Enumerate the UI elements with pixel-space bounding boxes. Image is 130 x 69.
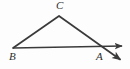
ray-b-through-a [13,46,122,48]
segment-bc [13,16,59,48]
vertex-label-b: B [9,51,16,62]
vertex-label-c: C [56,0,63,11]
ray-c-through-a [59,16,121,60]
vertex-label-a: A [96,51,103,62]
geometry-figure: C B A [0,0,130,69]
figure-canvas [0,0,130,69]
